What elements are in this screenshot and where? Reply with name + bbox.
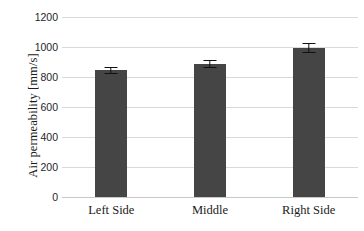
bar-group[interactable] [293, 17, 325, 197]
x-axis-tick-label: Left Side [62, 203, 161, 218]
y-axis-tick-label: 0 [12, 191, 58, 203]
bars-layer [62, 17, 358, 197]
bar[interactable] [194, 64, 226, 198]
error-bar-cap-lower [105, 73, 118, 74]
bar[interactable] [95, 70, 127, 198]
error-bar-cap-upper [204, 60, 217, 61]
error-bar-cap-upper [105, 67, 118, 68]
error-bar-cap-upper [302, 43, 315, 44]
bar-chart: Air permeability [mm/s] Left SideMiddleR… [0, 0, 364, 231]
error-bar-cap-lower [204, 67, 217, 68]
y-axis-tick-label: 1000 [12, 41, 58, 53]
y-axis-tick-label: 800 [12, 71, 58, 83]
y-axis-tick-label: 400 [12, 131, 58, 143]
error-bar-line [308, 43, 309, 52]
y-axis-tick-label: 600 [12, 101, 58, 113]
bar-group[interactable] [194, 17, 226, 197]
bar[interactable] [293, 48, 325, 197]
y-axis-tick-label: 1200 [12, 11, 58, 23]
x-axis-tick-label: Middle [161, 203, 260, 218]
error-bar-cap-lower [302, 52, 315, 53]
x-axis-tick-label: Right Side [259, 203, 358, 218]
axis-baseline [62, 197, 358, 198]
error-bar-line [209, 60, 210, 68]
y-axis-tick-label: 200 [12, 161, 58, 173]
bar-group[interactable] [95, 17, 127, 197]
